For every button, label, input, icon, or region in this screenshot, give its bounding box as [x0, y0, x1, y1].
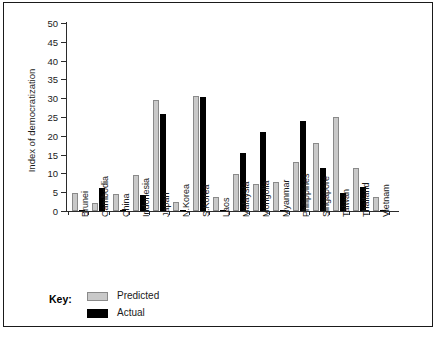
bar-group — [373, 23, 387, 211]
y-axis-tick-label: 5 — [22, 188, 58, 198]
legend-label-actual: Actual — [117, 307, 145, 318]
y-axis-tick-label-wrap: 35 — [18, 79, 58, 80]
x-axis-tick — [189, 211, 190, 215]
x-axis-tick — [149, 211, 150, 215]
x-axis-tick — [389, 211, 390, 215]
bar-predicted[interactable] — [313, 143, 319, 211]
bar-predicted[interactable] — [353, 168, 359, 211]
y-axis-tick-label: 25 — [22, 113, 58, 123]
legend-swatch-predicted — [87, 292, 108, 301]
bar-group — [113, 23, 127, 211]
legend-title: Key: — [49, 293, 72, 305]
bar-group — [213, 23, 227, 211]
bar-predicted[interactable] — [133, 175, 139, 211]
x-axis-tick — [229, 211, 230, 215]
x-axis-tick — [289, 211, 290, 215]
bar-predicted[interactable] — [213, 197, 219, 211]
y-axis-tick-label-wrap: 45 — [18, 42, 58, 43]
y-axis-tick-label-wrap: 30 — [18, 98, 58, 99]
bar-group — [72, 23, 86, 211]
x-axis-tick — [249, 211, 250, 215]
x-axis-tick — [169, 211, 170, 215]
y-axis-tick-label-wrap: 40 — [18, 61, 58, 62]
y-axis-tick-label-wrap: 15 — [18, 155, 58, 156]
x-axis-tick — [329, 211, 330, 215]
x-axis-tick — [88, 211, 89, 215]
bar-predicted[interactable] — [373, 197, 379, 211]
y-axis-tick-label-wrap: 0 — [18, 211, 58, 212]
x-axis-tick — [109, 211, 110, 215]
bar-group — [173, 23, 187, 211]
bar-predicted[interactable] — [153, 100, 159, 211]
bar-predicted[interactable] — [113, 194, 119, 211]
y-axis-tick-label: 15 — [22, 151, 58, 161]
y-axis-tick-label-wrap: 50 — [18, 23, 58, 24]
bar-predicted[interactable] — [72, 193, 78, 211]
x-axis-tick — [269, 211, 270, 215]
legend-swatch-actual — [87, 309, 108, 318]
y-axis-tick-label-wrap: 25 — [18, 117, 58, 118]
bar-predicted[interactable] — [253, 184, 259, 211]
bar-predicted[interactable] — [92, 203, 98, 211]
y-axis-tick-label: 30 — [22, 94, 58, 104]
bar-group — [193, 23, 207, 211]
bar-predicted[interactable] — [173, 202, 179, 211]
x-axis-tick — [68, 211, 69, 215]
y-axis-tick-label: 35 — [22, 75, 58, 85]
y-axis-tick-label: 45 — [22, 38, 58, 48]
y-axis-tick-label: 0 — [22, 207, 58, 217]
y-axis-tick-label-wrap: 20 — [18, 136, 58, 137]
figure-frame: Index of democratization 051015202530354… — [3, 2, 433, 327]
x-axis-tick — [369, 211, 370, 215]
plot-area — [66, 23, 398, 211]
bar-predicted[interactable] — [293, 162, 299, 211]
x-axis-tick — [349, 211, 350, 215]
y-axis-tick-label-wrap: 5 — [18, 192, 58, 193]
x-axis-tick — [309, 211, 310, 215]
bar-predicted[interactable] — [233, 174, 239, 211]
bar-predicted[interactable] — [193, 96, 199, 211]
legend-label-predicted: Predicted — [117, 290, 159, 301]
y-axis-tick-label-wrap: 10 — [18, 173, 58, 174]
y-axis-tick-label: 50 — [22, 19, 58, 29]
bar-predicted[interactable] — [273, 182, 279, 211]
bar-group — [153, 23, 167, 211]
y-axis-tick-label: 20 — [22, 132, 58, 142]
y-axis-tick-label: 10 — [22, 169, 58, 179]
bar-predicted[interactable] — [333, 117, 339, 211]
bar-group — [333, 23, 347, 211]
y-axis-tick-label: 40 — [22, 57, 58, 67]
x-axis-tick — [209, 211, 210, 215]
y-axis-tick — [61, 211, 66, 212]
x-axis-tick — [129, 211, 130, 215]
